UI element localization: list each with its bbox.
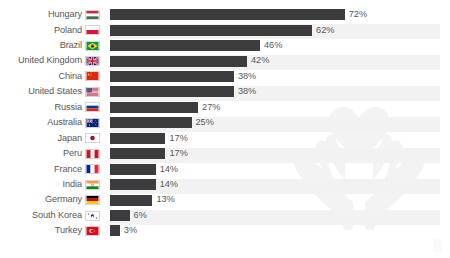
flag-russia-icon: [85, 102, 100, 112]
bar-track: 17%: [110, 148, 450, 159]
bar-value-label: 38%: [238, 87, 256, 96]
flag-poland-icon: [85, 25, 100, 35]
category-label: Poland: [0, 26, 82, 35]
bar-rows: Hungary72%Poland62%Brazil46%United Kingd…: [0, 0, 450, 258]
category-label: Turkey: [0, 226, 82, 235]
bar-track: 38%: [110, 71, 450, 82]
flag-brazil-icon: [85, 41, 100, 51]
chart-row: Poland62%: [0, 22, 450, 37]
bar-track: 62%: [110, 25, 450, 36]
bar-value-label: 14%: [160, 165, 178, 174]
chart-row: South Korea6%: [0, 208, 450, 223]
bar: [110, 71, 234, 82]
chart-row: Australia25%: [0, 115, 450, 130]
chart-row: Germany13%: [0, 192, 450, 207]
chart-row: Brazil46%: [0, 38, 450, 53]
bar: [110, 195, 152, 206]
chart-row: United States38%: [0, 84, 450, 99]
category-label: United States: [0, 87, 82, 96]
category-label: Hungary: [0, 10, 82, 19]
category-label: United Kingdom: [0, 56, 82, 65]
bar: [110, 86, 234, 97]
bar-value-label: 17%: [169, 149, 187, 158]
bar: [110, 102, 198, 113]
chart-row: China38%: [0, 69, 450, 84]
chart-row: Turkey3%: [0, 223, 450, 238]
bar-track: 46%: [110, 40, 450, 51]
flag-hungary-icon: [85, 10, 100, 20]
bar: [110, 9, 345, 20]
category-label: France: [0, 165, 82, 174]
bar-value-label: 27%: [202, 103, 220, 112]
flag-australia-icon: [85, 118, 100, 128]
flag-germany-icon: [85, 195, 100, 205]
bar: [110, 56, 247, 67]
horizontal-bar-chart: Hungary72%Poland62%Brazil46%United Kingd…: [0, 0, 450, 258]
flag-japan-icon: [85, 133, 100, 143]
bar-value-label: 46%: [264, 41, 282, 50]
bar-track: 17%: [110, 133, 450, 144]
flag-united-states-icon: [85, 87, 100, 97]
flag-france-icon: [85, 164, 100, 174]
bar-value-label: 6%: [134, 211, 147, 220]
bar-track: 25%: [110, 117, 450, 128]
bar-value-label: 25%: [196, 118, 214, 127]
flag-china-icon: [85, 71, 100, 81]
chart-row: Peru17%: [0, 146, 450, 161]
flag-united-kingdom-icon: [85, 56, 100, 66]
chart-row: Russia27%: [0, 100, 450, 115]
category-label: Australia: [0, 118, 82, 127]
bar-value-label: 62%: [316, 26, 334, 35]
chart-row: Japan17%: [0, 131, 450, 146]
category-label: Japan: [0, 134, 82, 143]
bar: [110, 210, 130, 221]
category-label: China: [0, 72, 82, 81]
bar-value-label: 17%: [169, 134, 187, 143]
chart-row: Hungary72%: [0, 7, 450, 22]
category-label: Russia: [0, 103, 82, 112]
bar-track: 14%: [110, 164, 450, 175]
category-label: Brazil: [0, 41, 82, 50]
bar-value-label: 38%: [238, 72, 256, 81]
chart-row: India14%: [0, 177, 450, 192]
bar-value-label: 14%: [160, 180, 178, 189]
category-label: India: [0, 180, 82, 189]
chart-row: France14%: [0, 162, 450, 177]
bar: [110, 25, 312, 36]
category-label: South Korea: [0, 211, 82, 220]
flag-south-korea-icon: [85, 211, 100, 221]
flag-india-icon: [85, 180, 100, 190]
flag-peru-icon: [85, 149, 100, 159]
bar: [110, 164, 156, 175]
bar: [110, 117, 192, 128]
bar: [110, 225, 120, 236]
bar: [110, 179, 156, 190]
chart-row: United Kingdom42%: [0, 53, 450, 68]
bar-value-label: 42%: [251, 56, 269, 65]
bar-value-label: 13%: [156, 195, 174, 204]
bar-track: 72%: [110, 9, 450, 20]
bar: [110, 148, 165, 159]
bar-track: 14%: [110, 179, 450, 190]
flag-turkey-icon: [85, 226, 100, 236]
bar: [110, 133, 165, 144]
bar-value-label: 72%: [349, 10, 367, 19]
bar-track: 3%: [110, 225, 450, 236]
category-label: Germany: [0, 195, 82, 204]
bar-track: 13%: [110, 195, 450, 206]
bar-value-label: 3%: [124, 226, 137, 235]
bar-track: 27%: [110, 102, 450, 113]
bar-track: 6%: [110, 210, 450, 221]
bar-track: 38%: [110, 86, 450, 97]
category-label: Peru: [0, 149, 82, 158]
bar-track: 42%: [110, 56, 450, 67]
bar: [110, 40, 260, 51]
